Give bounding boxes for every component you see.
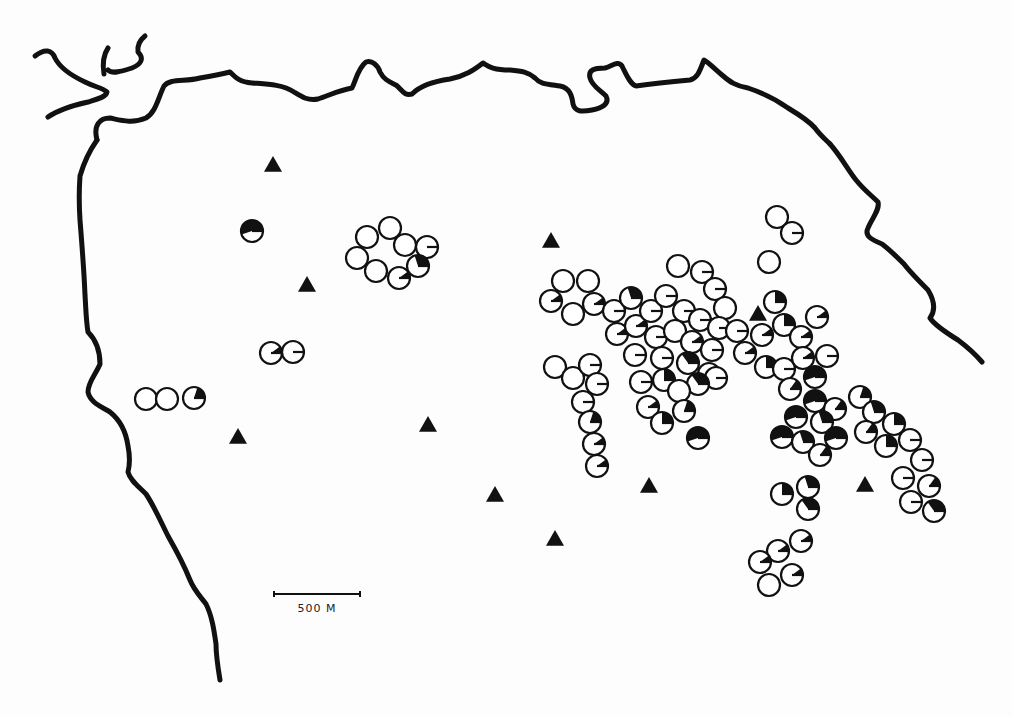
coastline (35, 36, 982, 680)
site-pie-marker (156, 388, 178, 410)
site-pie-marker (365, 260, 387, 282)
site-pie-marker (562, 303, 584, 325)
site-pie-marker (863, 401, 885, 423)
site-pie-marker (624, 344, 646, 366)
site-pie-marker (809, 444, 831, 466)
site-pie-marker (668, 380, 690, 402)
site-pie-marker (764, 291, 786, 313)
triangle-marker-icon (640, 477, 658, 493)
archaeological-site-map: 500 M (0, 0, 1012, 717)
site-pie-marker (806, 306, 828, 328)
site-pie-marker (577, 270, 599, 292)
coastline-segment (830, 144, 982, 362)
site-pie-marker (346, 247, 368, 269)
site-pie-marker (804, 390, 826, 412)
site-pie-marker (781, 222, 803, 244)
coastline-segment (35, 51, 107, 117)
site-pie-marker (923, 500, 945, 522)
site-pie-marker (797, 476, 819, 498)
site-pie-marker (918, 475, 940, 497)
site-pie-marker (667, 255, 689, 277)
site-pie-marker (673, 400, 695, 422)
site-pie-marker (356, 226, 378, 248)
site-pie-marker (781, 564, 803, 586)
scale-bar-label: 500 M (298, 602, 337, 615)
site-pie-marker (651, 412, 673, 434)
site-pie-marker (677, 352, 699, 374)
triangle-marker-icon (856, 476, 874, 492)
site-pie-marker (751, 324, 773, 346)
site-pie-marker (394, 234, 416, 256)
site-pie-marker (586, 455, 608, 477)
site-pie-marker (911, 449, 933, 471)
site-pie-marker (785, 406, 807, 428)
site-pie-marker (651, 347, 673, 369)
site-pie-marker (681, 331, 703, 353)
site-pie-marker (758, 251, 780, 273)
site-pie-marker (241, 220, 263, 242)
site-pie-marker (540, 290, 562, 312)
site-pie-marker (892, 467, 914, 489)
site-pie-marker (655, 285, 677, 307)
triangle-marker-icon (229, 428, 247, 444)
triangle-marker-icon (546, 530, 564, 546)
site-pie-marker (900, 491, 922, 513)
scale-bar: 500 M (274, 591, 360, 615)
site-pie-marker (804, 366, 826, 388)
site-pie-marker (779, 378, 801, 400)
triangle-marker-icon (264, 156, 282, 172)
site-pie-marker (875, 435, 897, 457)
site-pie-marker (714, 297, 736, 319)
site-pie-marker (583, 293, 605, 315)
site-pie-marker (758, 574, 780, 596)
site-pie-marker (183, 387, 205, 409)
triangle-marker-icon (486, 486, 504, 502)
site-pie-marker (407, 255, 429, 277)
site-pie-marker (552, 270, 574, 292)
triangle-marker-icon (542, 232, 560, 248)
site-pie-marker (749, 551, 771, 573)
coastline-segment (96, 60, 830, 144)
site-pie-markers (135, 206, 945, 596)
site-pie-marker (734, 342, 756, 364)
site-pie-marker (726, 320, 748, 342)
site-pie-marker (701, 339, 723, 361)
site-pie-marker (687, 427, 709, 449)
site-pie-marker (899, 429, 921, 451)
site-pie-marker (771, 483, 793, 505)
site-pie-marker (572, 391, 594, 413)
site-pie-marker (816, 345, 838, 367)
site-pie-marker (620, 287, 642, 309)
site-pie-marker (583, 433, 605, 455)
site-pie-marker (630, 371, 652, 393)
site-pie-marker (790, 326, 812, 348)
site-pie-marker (282, 341, 304, 363)
triangle-marker-icon (298, 276, 316, 292)
site-pie-marker (135, 388, 157, 410)
triangle-marker-icon (419, 416, 437, 432)
site-pie-marker (579, 411, 601, 433)
site-pie-marker (797, 498, 819, 520)
site-pie-marker (825, 427, 847, 449)
site-pie-marker (771, 426, 793, 448)
site-pie-marker (260, 342, 282, 364)
site-pie-marker (855, 421, 877, 443)
coastline-segment (103, 36, 145, 74)
site-pie-marker (790, 530, 812, 552)
